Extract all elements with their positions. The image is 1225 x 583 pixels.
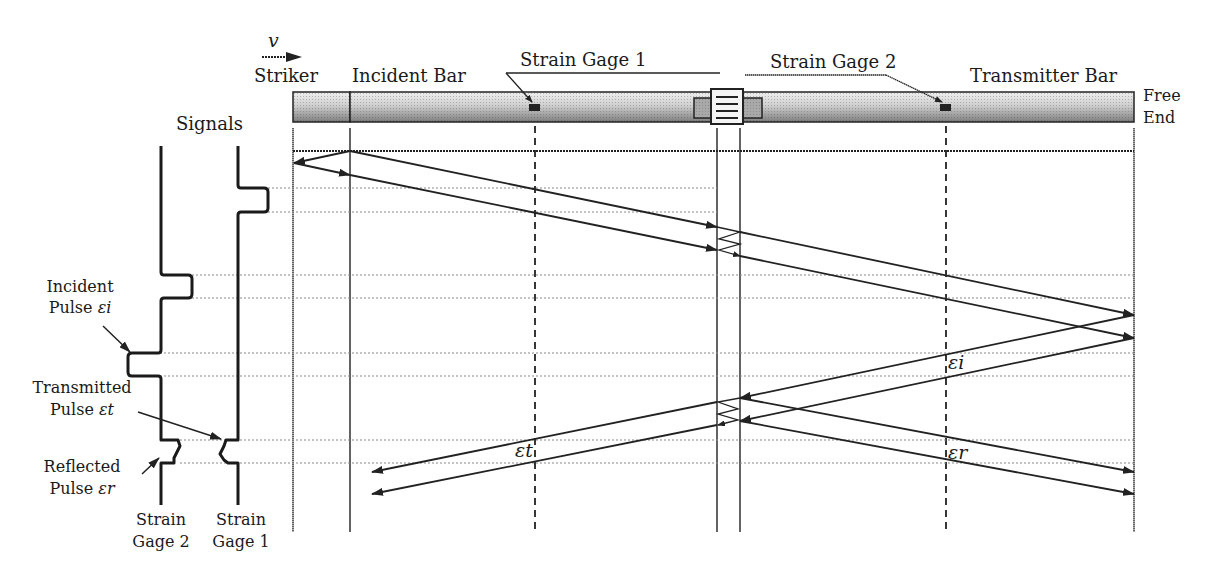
- incident-bar-label: Incident Bar: [352, 66, 466, 86]
- incident-pulse-label-line1: Incident: [30, 277, 130, 296]
- lattice-epsilon-t-label: εt: [515, 440, 533, 460]
- strain-gage-2-sensor: [940, 104, 951, 111]
- epsilon-r-symbol: εr: [98, 479, 114, 498]
- velocity-label: v: [268, 30, 279, 50]
- gage-2-bottom-label-line2: Gage 2: [126, 532, 196, 551]
- gage-1-bottom-label-line2: Gage 1: [206, 532, 276, 551]
- signal-alignment-lines: [128, 188, 1134, 463]
- transmitted-pulse-label-line2: Pulse εt: [22, 400, 142, 419]
- transmitter-bar-label: Transmitter Bar: [970, 66, 1117, 86]
- hopkinson-bar-diagram: [0, 0, 1225, 583]
- reflected-pulse-label-line2: Pulse εr: [32, 479, 132, 498]
- reflected-pulse-label-line1: Reflected: [32, 457, 132, 476]
- striker-label: Striker: [254, 66, 318, 86]
- specimen-reverberation-top: [717, 227, 740, 256]
- strain-gage-2-label: Strain Gage 2: [770, 52, 896, 72]
- bar-assembly: [293, 89, 1134, 124]
- strain-gage-1-sensor: [529, 104, 540, 111]
- strain-gage-1-label: Strain Gage 1: [520, 50, 646, 70]
- signals-heading: Signals: [176, 114, 243, 134]
- signal-trace-gage-1: [220, 146, 268, 505]
- gage-1-bottom-label-line1: Strain: [206, 510, 276, 529]
- free-end-label-line2: End: [1143, 108, 1175, 127]
- incident-pulse-label-line2: Pulse εi: [30, 298, 130, 317]
- gage-2-bottom-label-line1: Strain: [126, 510, 196, 529]
- velocity-arrow-icon: [262, 52, 302, 62]
- free-end-label-line1: Free: [1143, 86, 1181, 105]
- lattice-epsilon-i-label: εi: [948, 352, 964, 372]
- signal-trace-gage-2: [128, 146, 192, 505]
- epsilon-t-symbol: εt: [99, 400, 114, 419]
- lattice-epsilon-r-label: εr: [948, 442, 967, 462]
- transmitted-pulse-label-line1: Transmitted: [22, 378, 142, 397]
- specimen-reverberation-bottom: [718, 398, 740, 425]
- epsilon-i-symbol: εi: [98, 298, 112, 317]
- wave-paths: [294, 151, 1134, 494]
